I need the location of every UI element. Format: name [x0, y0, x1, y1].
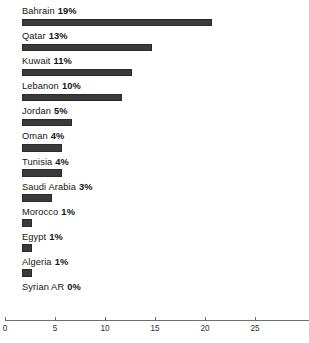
x-tick-label: 15 [150, 324, 159, 333]
value-label: 4% [55, 157, 69, 167]
bar-label: Kuwait11% [22, 56, 72, 67]
bar-morocco [22, 219, 32, 227]
value-label: 3% [79, 182, 93, 192]
bar-egypt [22, 244, 32, 252]
x-tick [105, 317, 106, 321]
bar-label: Egypt1% [22, 232, 63, 243]
category-label: Oman [22, 131, 48, 141]
bar-bahrain [22, 19, 212, 27]
x-tick [5, 317, 6, 321]
bar-lebanon [22, 94, 122, 102]
bar-jordan [22, 119, 72, 127]
x-axis: 0 5 10 15 20 25 [0, 320, 309, 321]
bar-row: Algeria1% [0, 257, 309, 282]
x-tick [155, 317, 156, 321]
bar-row: Kuwait11% [0, 56, 309, 81]
category-label: Morocco [22, 207, 58, 217]
bar-label: Tunisia4% [22, 157, 69, 168]
value-label: 5% [54, 106, 68, 116]
category-label: Tunisia [22, 157, 52, 167]
x-tick-label: 20 [200, 324, 209, 333]
value-label: 11% [54, 56, 72, 66]
value-label: 13% [49, 31, 68, 41]
category-label: Algeria [22, 257, 52, 267]
bar-label: Qatar13% [22, 31, 68, 42]
x-tick-label: 10 [100, 324, 109, 333]
bar-row: Qatar13% [0, 31, 309, 56]
plot-area: Bahrain19% Qatar13% Kuwait11% Lebanon10%… [0, 6, 309, 308]
bar-row: Morocco1% [0, 207, 309, 232]
bar-row: Tunisia4% [0, 157, 309, 182]
x-tick [205, 317, 206, 321]
category-label: Lebanon [22, 81, 59, 91]
bar-algeria [22, 269, 32, 277]
bar-row: Saudi Arabia3% [0, 182, 309, 207]
bar-label: Oman4% [22, 131, 64, 142]
bar-oman [22, 144, 62, 152]
bar-label: Algeria1% [22, 257, 68, 268]
axis-line [5, 320, 309, 321]
value-label: 1% [49, 232, 63, 242]
value-label: 10% [62, 81, 81, 91]
x-tick [255, 317, 256, 321]
bar-label: Bahrain19% [22, 6, 77, 17]
value-label: 19% [58, 6, 77, 16]
category-label: Syrian AR [22, 282, 64, 292]
bar-row: Syrian AR0% [0, 282, 309, 307]
x-tick-label: 25 [250, 324, 259, 333]
x-tick-label: 0 [3, 324, 8, 333]
category-label: Saudi Arabia [22, 182, 76, 192]
category-label: Kuwait [22, 56, 51, 66]
bar-chart: Bahrain19% Qatar13% Kuwait11% Lebanon10%… [0, 0, 309, 343]
bar-qatar [22, 44, 152, 52]
bar-kuwait [22, 69, 132, 77]
value-label: 1% [55, 257, 69, 267]
bar-row: Oman4% [0, 131, 309, 156]
value-label: 4% [51, 131, 65, 141]
bar-label: Jordan5% [22, 106, 68, 117]
bar-row: Bahrain19% [0, 6, 309, 31]
bar-saudi-arabia [22, 194, 52, 202]
value-label: 0% [67, 282, 81, 292]
value-label: 1% [61, 207, 75, 217]
bar-label: Morocco1% [22, 207, 75, 218]
category-label: Egypt [22, 232, 46, 242]
bar-label: Saudi Arabia3% [22, 182, 93, 193]
bar-row: Lebanon10% [0, 81, 309, 106]
bar-row: Jordan5% [0, 106, 309, 131]
category-label: Bahrain [22, 6, 55, 16]
bar-label: Lebanon10% [22, 81, 81, 92]
x-tick-label: 5 [53, 324, 58, 333]
x-tick [55, 317, 56, 321]
bar-tunisia [22, 169, 62, 177]
category-label: Qatar [22, 31, 46, 41]
bar-row: Egypt1% [0, 232, 309, 257]
bar-label: Syrian AR0% [22, 282, 81, 293]
category-label: Jordan [22, 106, 51, 116]
